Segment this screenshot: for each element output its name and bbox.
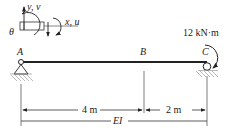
stiffness-label: EI	[113, 116, 122, 126]
moment-load-label: 12 kN·m	[183, 28, 219, 38]
point-c-label: C	[202, 47, 209, 57]
point-a-label: A	[17, 47, 23, 57]
roller-support-c	[196, 63, 218, 77]
dimension-4m-label: 4 m	[82, 105, 97, 115]
axis-x-label: x, u	[65, 17, 79, 27]
point-b-label: B	[140, 47, 146, 57]
rotation-label: θ	[9, 27, 14, 37]
dimension-2m-label: 2 m	[166, 105, 181, 115]
axis-y-label: y, v	[27, 2, 40, 12]
